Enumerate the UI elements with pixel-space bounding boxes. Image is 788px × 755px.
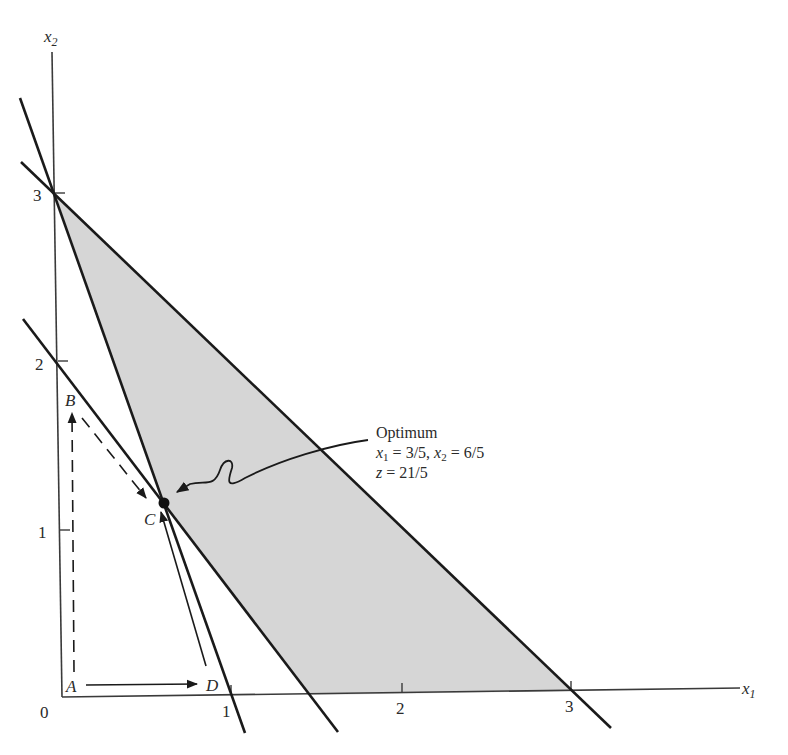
annotation-title: Optimum [376, 424, 438, 442]
optimum-point [159, 498, 170, 509]
point-label-b: B [65, 391, 76, 410]
y-axis-label: x2 [43, 27, 58, 49]
path-a-to-b [72, 413, 74, 672]
point-label-d: D [205, 676, 219, 695]
x-tick-label-1: 1 [222, 702, 231, 721]
y-tick-label-3: 3 [33, 186, 42, 205]
lp-diagram: x2 x1 0 1 2 3 1 2 3 A B C D Optimum x1 =… [0, 0, 788, 755]
origin-label: 0 [40, 703, 49, 722]
point-label-c: C [144, 510, 156, 529]
y-tick-label-1: 1 [38, 523, 47, 542]
x-axis-label: x1 [741, 679, 756, 701]
path-a-to-d [86, 684, 197, 685]
y-axis [52, 52, 62, 697]
annotation-line-2: z = 21/5 [375, 464, 428, 481]
x-tick-label-3: 3 [565, 697, 574, 716]
x-tick-label-2: 2 [396, 699, 405, 718]
annotation-line-1: x1 = 3/5, x2 = 6/5 [375, 444, 484, 463]
y-tick-label-2: 2 [35, 355, 44, 374]
point-label-a: A [65, 677, 77, 696]
